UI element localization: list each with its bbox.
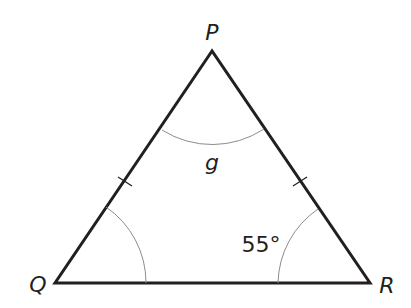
vertex-label-r: R xyxy=(379,273,394,298)
angle-label-g: g xyxy=(205,150,219,175)
triangle-diagram: P Q R g 55° xyxy=(0,0,411,308)
vertex-label-p: P xyxy=(205,20,219,45)
angle-arc-r xyxy=(278,209,318,283)
angle-arc-p xyxy=(162,129,264,145)
angle-label-55: 55° xyxy=(242,232,281,257)
vertex-label-q: Q xyxy=(29,272,46,297)
angle-arc-q xyxy=(106,207,146,283)
